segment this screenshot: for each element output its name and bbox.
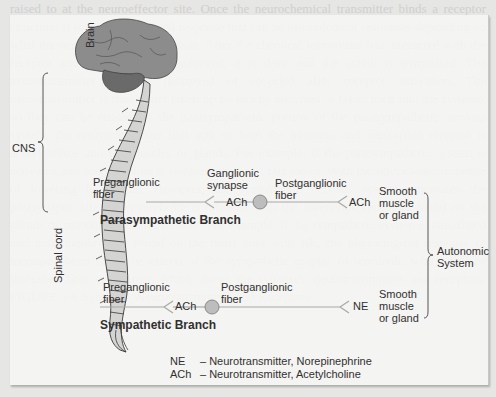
sympathetic-branch-label: Sympathetic Branch bbox=[100, 319, 216, 331]
para-ach-1-label: ACh bbox=[226, 196, 247, 208]
cns-brace-icon bbox=[38, 73, 48, 212]
parasympathetic-ganglion-icon bbox=[253, 195, 267, 209]
legend-row-ne: NE– Neurotransmitter, Norepinephrine bbox=[170, 355, 372, 368]
para-ach-2-label: ACh bbox=[349, 196, 370, 208]
para-target-label: Smooth muscle or gland bbox=[379, 185, 419, 221]
autonomic-system-label: Autonomic System bbox=[437, 245, 489, 269]
symp-preganglionic-label: Preganglionic fiber bbox=[103, 281, 170, 305]
legend-row-ach: ACh– Neurotransmitter, Acetylcholine bbox=[170, 368, 372, 381]
symp-target-label: Smooth muscle or gland bbox=[379, 288, 419, 324]
sympathetic-ganglion-icon bbox=[205, 300, 219, 314]
symp-postganglionic-label: Postganglionic fiber bbox=[221, 281, 293, 305]
legend: NE– Neurotransmitter, Norepinephrine ACh… bbox=[170, 355, 372, 381]
symp-ach-label: ACh bbox=[175, 300, 196, 312]
para-preganglionic-label: Preganglionic fiber bbox=[93, 176, 160, 200]
cns-label: CNS bbox=[12, 142, 35, 154]
parasympathetic-branch-label: Parasympathetic Branch bbox=[100, 214, 241, 226]
para-ganglionic-synapse-label: Ganglionic synapse bbox=[207, 167, 259, 191]
nervous-system-illustration bbox=[0, 0, 496, 397]
spinal-cord-label: Spinal cord bbox=[52, 228, 64, 283]
brain-label: Brain bbox=[84, 22, 96, 48]
symp-ne-label: NE bbox=[353, 300, 368, 312]
autonomic-brace-icon bbox=[424, 193, 433, 318]
para-postganglionic-label: Postganglionic fiber bbox=[275, 177, 347, 201]
